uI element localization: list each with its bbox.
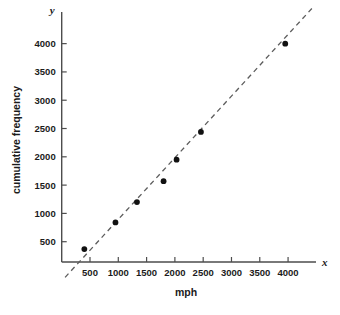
x-axis-ticks (90, 257, 288, 262)
x-tick-label: 3000 (221, 267, 242, 278)
x-axis-title: mph (175, 286, 197, 298)
x-tick-label: 3500 (249, 267, 270, 278)
x-tick-label: 2500 (193, 267, 214, 278)
y-axis-tick-labels: 5001000150020002500300035004000 (35, 38, 56, 247)
data-point (81, 246, 87, 252)
x-axis-tick-labels: 5001000150020002500300035004000 (82, 267, 299, 278)
plot-area: 5001000150020002500300035004000 50010001… (0, 0, 340, 315)
y-axis-title: cumulative frequency (10, 86, 22, 194)
y-tick-label: 3500 (35, 66, 56, 77)
x-tick-label: 500 (82, 267, 98, 278)
data-point (198, 129, 204, 135)
y-tick-label: 4000 (35, 38, 56, 49)
y-tick-label: 1000 (35, 208, 56, 219)
y-tick-label: 500 (40, 236, 56, 247)
x-tick-label: 1000 (108, 267, 129, 278)
x-tick-label: 1500 (136, 267, 157, 278)
y-axis-variable-label: y (48, 4, 55, 16)
data-point (161, 178, 167, 184)
data-point (282, 41, 288, 47)
y-tick-label: 1500 (35, 180, 56, 191)
y-tick-label: 3000 (35, 95, 56, 106)
x-tick-label: 2000 (164, 267, 185, 278)
line-of-best-fit (65, 9, 312, 278)
cumulative-frequency-scatter-chart: 5001000150020002500300035004000 50010001… (0, 0, 340, 315)
y-tick-label: 2500 (35, 123, 56, 134)
data-point (134, 199, 140, 205)
x-tick-label: 4000 (278, 267, 299, 278)
data-point-group (81, 41, 288, 252)
y-tick-label: 2000 (35, 151, 56, 162)
data-point (174, 157, 180, 163)
data-point (113, 220, 119, 226)
y-axis-ticks (62, 44, 67, 242)
x-axis-variable-label: x (321, 256, 328, 268)
